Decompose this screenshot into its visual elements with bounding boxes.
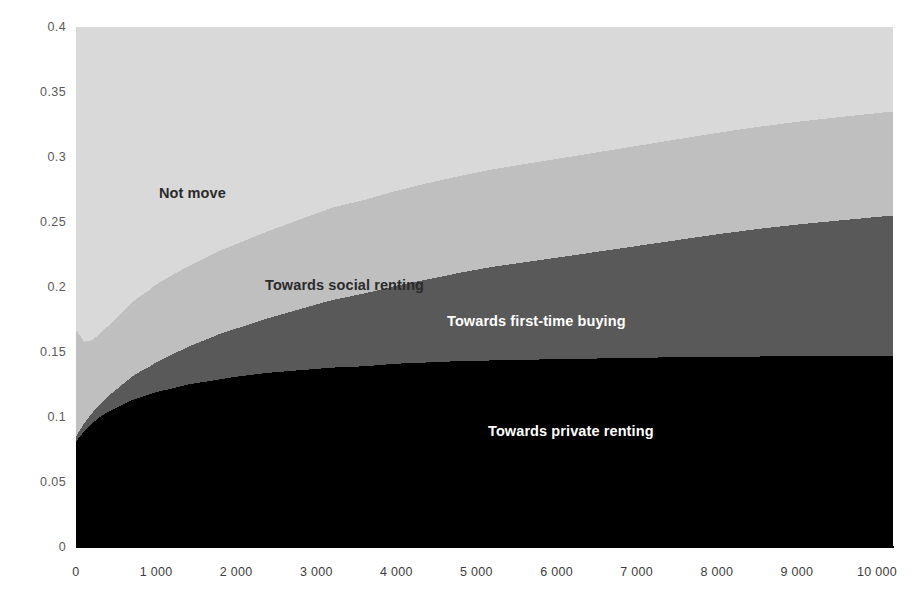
series-label: Not move bbox=[159, 186, 226, 201]
series-label: Towards first-time buying bbox=[447, 314, 626, 329]
x-tick-label: 2 000 bbox=[220, 566, 253, 579]
x-tick-label: 1 000 bbox=[140, 566, 173, 579]
x-tick-label: 6 000 bbox=[540, 566, 573, 579]
stacked-area-svg bbox=[76, 27, 893, 547]
y-tick-label: 0.4 bbox=[8, 21, 66, 34]
y-tick-label: 0.1 bbox=[8, 411, 66, 424]
x-tick-label: 8 000 bbox=[700, 566, 733, 579]
y-tick-label: 0.25 bbox=[8, 216, 66, 229]
x-tick-label: 0 bbox=[72, 566, 79, 579]
y-tick-label: 0.35 bbox=[8, 86, 66, 99]
x-tick-label: 7 000 bbox=[620, 566, 653, 579]
y-tick-label: 0.05 bbox=[8, 476, 66, 489]
x-tick-label: 10 000 bbox=[857, 566, 897, 579]
x-tick-label: 9 000 bbox=[780, 566, 813, 579]
y-tick-label: 0.3 bbox=[8, 151, 66, 164]
x-axis-tick-labels: 01 0002 0003 0004 0005 0006 0007 0008 00… bbox=[0, 566, 917, 590]
x-tick-label: 4 000 bbox=[380, 566, 413, 579]
x-tick-label: 3 000 bbox=[300, 566, 333, 579]
y-axis-tick-labels: 00.050.10.150.20.250.30.350.4 bbox=[0, 0, 66, 612]
x-axis-line bbox=[76, 546, 894, 548]
y-tick-label: 0.2 bbox=[8, 281, 66, 294]
plot-area bbox=[76, 27, 893, 547]
series-label: Towards private renting bbox=[488, 424, 654, 439]
stacked-area-chart: 00.050.10.150.20.250.30.350.4 Not moveTo… bbox=[0, 0, 917, 612]
x-tick-label: 5 000 bbox=[460, 566, 493, 579]
y-tick-label: 0 bbox=[8, 541, 66, 554]
y-tick-label: 0.15 bbox=[8, 346, 66, 359]
series-label: Towards social renting bbox=[265, 278, 424, 293]
area-band bbox=[76, 356, 893, 547]
